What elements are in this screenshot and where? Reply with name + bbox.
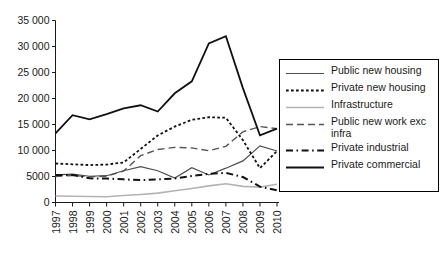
y-axis: 0500010 00015 00020 00025 00030 00035 00… xyxy=(17,14,55,208)
y-axis-tick-label: 0 xyxy=(44,196,50,208)
x-axis-tick-label: 2000 xyxy=(101,210,113,234)
legend-swatch-solid-light xyxy=(285,100,325,113)
legend-swatch-solid-gray xyxy=(285,66,325,79)
x-axis-tick-label: 1998 xyxy=(67,210,79,234)
legend-item[interactable]: Private commercial xyxy=(285,159,434,173)
x-axis-tick-label: 2003 xyxy=(152,210,164,234)
legend-item-label: Infrastructure xyxy=(331,99,393,111)
x-axis-tick-label: 2001 xyxy=(118,210,130,234)
series-line-infrastructure xyxy=(56,184,278,197)
legend-item-label: Private industrial xyxy=(331,142,409,154)
y-axis-tick-label: 30 000 xyxy=(17,40,49,52)
y-axis-tick-label: 35 000 xyxy=(17,14,49,26)
series-line-private-industrial xyxy=(56,173,278,190)
series-line-public-new-housing xyxy=(56,146,278,178)
legend-swatch-solid-black xyxy=(285,160,325,173)
chart-legend: Public new housingPrivate new housingInf… xyxy=(279,59,439,192)
legend-item-label: Public new housing xyxy=(331,65,421,77)
line-chart: 0500010 00015 00020 00025 00030 00035 00… xyxy=(0,0,443,253)
x-axis-tick-label: 2010 xyxy=(271,210,283,234)
x-axis-tick-label: 2006 xyxy=(203,210,215,234)
legend-item[interactable]: Infrastructure xyxy=(285,99,434,113)
legend-swatch-dashdot xyxy=(285,143,325,156)
x-axis-tick-label: 2004 xyxy=(169,210,181,234)
legend-item[interactable]: Public new work exc infra xyxy=(285,116,434,139)
x-axis-tick-label: 2002 xyxy=(135,210,147,234)
y-axis-tick-label: 20 000 xyxy=(17,92,49,104)
y-axis-tick-label: 15 000 xyxy=(17,118,49,130)
x-axis-tick-label: 2007 xyxy=(220,210,232,234)
legend-swatch-longdash xyxy=(285,117,325,130)
x-axis-tick-label: 1997 xyxy=(50,210,62,234)
data-series-group xyxy=(56,36,278,197)
series-line-private-commercial xyxy=(56,36,278,135)
x-axis-tick-label: 2005 xyxy=(186,210,198,234)
legend-item[interactable]: Private new housing xyxy=(285,82,434,96)
x-axis-tick-label: 1999 xyxy=(84,210,96,234)
y-axis-tick-label: 5000 xyxy=(26,170,50,182)
x-axis: 1997199819992000200120022003200420052006… xyxy=(50,203,284,234)
legend-item-label: Public new work exc infra xyxy=(331,116,426,139)
y-axis-tick-label: 10 000 xyxy=(17,144,49,156)
y-axis-tick-label: 25 000 xyxy=(17,66,49,78)
legend-swatch-dotted xyxy=(285,83,325,96)
legend-item-label: Private commercial xyxy=(331,159,420,171)
series-line-public-new-work-exc-infra xyxy=(56,127,278,177)
legend-item[interactable]: Private industrial xyxy=(285,142,434,156)
legend-item[interactable]: Public new housing xyxy=(285,65,434,79)
legend-item-label: Private new housing xyxy=(331,82,426,94)
x-axis-tick-label: 2009 xyxy=(254,210,266,234)
x-axis-tick-label: 2008 xyxy=(237,210,249,234)
